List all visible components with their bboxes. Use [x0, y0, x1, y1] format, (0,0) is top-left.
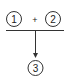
arrow-down-icon: [33, 53, 38, 58]
node-3: 3: [28, 61, 43, 76]
plus-operator: +: [32, 15, 37, 25]
node-3-label: 3: [33, 63, 39, 74]
node-1-label: 1: [11, 14, 17, 25]
node-2: 2: [46, 12, 61, 27]
node-1: 1: [7, 12, 22, 27]
node-2-label: 2: [50, 14, 56, 25]
combination-diagram: 1 + 2 3: [0, 0, 69, 82]
